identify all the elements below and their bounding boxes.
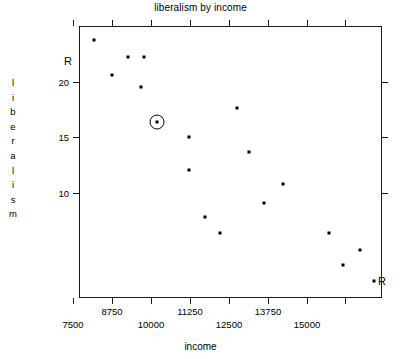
y-axis-title-letter-8: s	[6, 193, 20, 208]
x-tick-bottom-6	[307, 298, 308, 304]
x-tick-bottom-5	[268, 298, 269, 304]
x-tick-bottom-7	[345, 298, 346, 304]
data-point[interactable]	[156, 121, 159, 124]
y-axis-title-letter-2: b	[6, 105, 20, 120]
y-tick-label-10: 10	[45, 188, 69, 199]
annotation-r-top-left: R	[64, 55, 72, 67]
y-axis-title-letter-3: e	[6, 120, 20, 135]
x-tick-label-10000: 10000	[138, 319, 164, 330]
x-tick-bottom-4	[229, 298, 230, 304]
data-point[interactable]	[359, 249, 362, 252]
annotation-r-bottom-right: R	[378, 275, 386, 287]
x-tick-top-3	[190, 20, 191, 26]
data-point[interactable]	[188, 136, 191, 139]
data-point[interactable]	[143, 56, 146, 59]
y-axis-title-letter-4: r	[6, 134, 20, 149]
x-tick-label-8750: 8750	[101, 306, 122, 317]
chart-title: liberalism by income	[0, 2, 401, 14]
x-tick-label-12500: 12500	[216, 319, 242, 330]
data-point[interactable]	[204, 216, 207, 219]
data-point[interactable]	[342, 264, 345, 267]
x-tick-label-15000: 15000	[294, 319, 320, 330]
y-axis-title-letter-0: l	[6, 76, 20, 91]
x-tick-bottom-3	[190, 298, 191, 304]
y-axis-title: liberalism	[6, 76, 20, 222]
y-tick-left-20	[73, 82, 79, 83]
y-axis-title-letter-6: l	[6, 164, 20, 179]
data-point[interactable]	[236, 107, 239, 110]
scatter-plot-figure: liberalism by income 7500875010000112501…	[0, 0, 401, 359]
data-point[interactable]	[248, 151, 251, 154]
data-point[interactable]	[328, 232, 331, 235]
x-tick-top-7	[345, 20, 346, 26]
y-tick-right-15	[382, 137, 388, 138]
data-point[interactable]	[127, 56, 130, 59]
y-axis-title-letter-9: m	[6, 207, 20, 222]
data-point[interactable]	[282, 183, 285, 186]
x-tick-top-6	[307, 20, 308, 26]
x-tick-top-2	[151, 20, 152, 26]
data-point[interactable]	[111, 74, 114, 77]
plot-frame	[79, 26, 382, 298]
y-tick-right-20	[382, 82, 388, 83]
x-tick-label-7500: 7500	[62, 319, 83, 330]
y-tick-left-10	[73, 193, 79, 194]
data-point[interactable]	[140, 86, 143, 89]
data-point[interactable]	[219, 232, 222, 235]
x-tick-bottom-2	[151, 298, 152, 304]
x-tick-top-5	[268, 20, 269, 26]
x-tick-bottom-1	[112, 298, 113, 304]
data-point[interactable]	[373, 280, 376, 283]
x-tick-top-4	[229, 20, 230, 26]
y-axis-title-letter-5: a	[6, 149, 20, 164]
y-tick-right-10	[382, 193, 388, 194]
data-point[interactable]	[263, 202, 266, 205]
y-axis-title-letter-7: i	[6, 178, 20, 193]
data-point[interactable]	[188, 169, 191, 172]
y-tick-left-15	[73, 137, 79, 138]
x-axis-title: income	[0, 341, 401, 353]
data-point[interactable]	[93, 39, 96, 42]
x-tick-top-1	[112, 20, 113, 26]
y-tick-label-15: 15	[45, 132, 69, 143]
y-tick-label-20: 20	[45, 77, 69, 88]
y-axis-title-letter-1: i	[6, 91, 20, 106]
x-tick-top-0	[73, 20, 74, 26]
x-tick-label-11250: 11250	[177, 306, 203, 317]
x-tick-bottom-0	[73, 298, 74, 304]
x-tick-label-13750: 13750	[255, 306, 281, 317]
